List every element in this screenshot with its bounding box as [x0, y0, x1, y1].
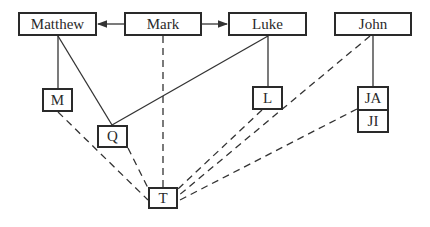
node-luke: Luke [228, 12, 307, 36]
source-diagram: Matthew Mark Luke John M Q L JA JI T [0, 0, 430, 227]
edge-luke-q [112, 36, 268, 125]
edge-l-t [178, 110, 262, 189]
node-john: John [334, 12, 412, 36]
node-m: M [42, 88, 73, 112]
node-mark: Mark [124, 12, 202, 36]
node-ji: JI [357, 109, 389, 133]
edge-ji-t [178, 109, 357, 201]
node-matthew: Matthew [18, 12, 97, 36]
edge-q-t [128, 148, 148, 188]
node-ja: JA [357, 86, 389, 111]
edge-john-t [178, 36, 370, 196]
node-t: T [148, 187, 178, 209]
node-l: L [252, 86, 283, 110]
node-q: Q [97, 125, 128, 148]
